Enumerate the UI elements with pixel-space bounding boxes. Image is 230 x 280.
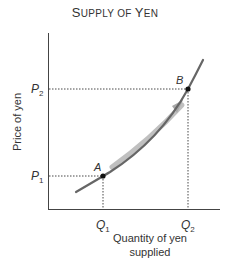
label-b: B	[176, 74, 183, 86]
y-axis-label: Price of yen	[11, 77, 23, 167]
point-a	[100, 173, 105, 178]
point-b	[185, 86, 190, 91]
x-axis-label: Quantity of yensupplied	[88, 231, 212, 259]
tick-p2: P2	[31, 82, 43, 98]
tick-p1: P1	[31, 169, 43, 185]
label-a: A	[94, 161, 101, 173]
